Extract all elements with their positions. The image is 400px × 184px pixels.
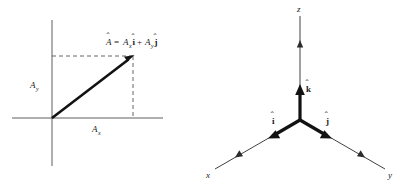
equation-term2-subscript: y	[150, 43, 154, 49]
y-axis-label: y	[387, 170, 392, 180]
x-axis-label: x	[205, 170, 210, 180]
unit-vector-i-label: i ˆ	[271, 110, 275, 126]
unit-vector-k-hat-accent: ˆ	[306, 78, 309, 88]
x-component-symbol: A	[91, 124, 98, 134]
equation-term1-hat-accent: ˆ	[132, 32, 135, 42]
unit-vector-k-label: k ˆ	[306, 78, 312, 94]
unit-vector-k-arrow	[295, 84, 305, 120]
cartesian-unit-vectors-diagram: z x y k ˆ i ˆ j ˆ	[200, 0, 400, 184]
x-component-subscript: x	[97, 130, 101, 136]
equation-term2-coefficient: A	[144, 37, 151, 47]
equation-term2-hat-accent: ˆ	[154, 32, 157, 42]
x-component-label: A x	[91, 124, 101, 136]
unit-vector-j-label: j ˆ	[325, 110, 329, 126]
unit-vector-j-hat-accent: ˆ	[325, 110, 328, 120]
physics-figure: A ˆ = A x i ˆ + A y j ˆ A y A x	[0, 0, 400, 184]
y-component-symbol: A	[29, 80, 36, 90]
equation-equals: =	[114, 37, 119, 47]
z-axis-label: z	[296, 4, 301, 14]
equation-plus: +	[137, 37, 142, 47]
equation-term1-subscript: x	[128, 43, 132, 49]
vector-decomposition-diagram: A ˆ = A x i ˆ + A y j ˆ A y A x	[0, 0, 200, 184]
y-component-label: A y	[29, 80, 39, 92]
equation-vector-arrow-accent: ˆ	[107, 31, 110, 41]
equation-term1-coefficient: A	[122, 37, 129, 47]
vector-a-arrow	[52, 55, 135, 118]
vector-equation-label: A ˆ = A x i ˆ + A y j ˆ	[105, 31, 158, 49]
unit-vector-i-hat-accent: ˆ	[271, 110, 274, 120]
y-component-subscript: y	[35, 86, 39, 92]
